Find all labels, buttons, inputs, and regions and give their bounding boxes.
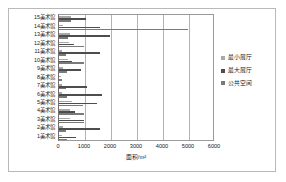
y-axis-label: 13美术馆 [9, 32, 55, 37]
y-axis-label: 6美术馆 [9, 92, 55, 97]
y-axis-label: 8美术馆 [9, 75, 55, 80]
y-axis-category-labels: 15美术馆14美术馆13美术馆12美术馆11美术馆10美术馆9美术馆8美术馆7美… [9, 14, 57, 141]
bar [59, 71, 67, 73]
bar [59, 29, 188, 31]
bar-group [59, 66, 213, 74]
bar-group [59, 116, 213, 124]
bar [59, 96, 67, 98]
plot-area [58, 14, 214, 141]
legend-swatch-icon [221, 81, 225, 85]
chart-legend: 最小展厅最大展厅公共空间 [221, 55, 275, 93]
bar-rows [59, 15, 213, 140]
y-axis-label: 12美术馆 [9, 41, 55, 46]
bar [59, 88, 66, 90]
y-axis-label: 2美术馆 [9, 125, 55, 130]
bar [59, 130, 66, 132]
bar [59, 79, 62, 81]
bar [59, 62, 84, 64]
y-axis-label: 3美术馆 [9, 117, 55, 122]
x-axis-tick: 2000 [104, 143, 116, 149]
y-axis-label: 9美术馆 [9, 66, 55, 71]
legend-label: 最小展厅 [228, 55, 252, 61]
x-axis-title: 面积/m² [58, 152, 214, 161]
bar [59, 46, 84, 48]
bar-group [59, 57, 213, 65]
legend-swatch-icon [221, 56, 225, 60]
legend-item[interactable]: 公共空间 [221, 81, 275, 87]
bar-group [59, 23, 213, 31]
bar-group [59, 32, 213, 40]
bar [59, 105, 83, 107]
bar [59, 113, 84, 115]
bar [59, 122, 84, 124]
y-axis-label: 4美术馆 [9, 108, 55, 113]
x-axis-tick-labels: 0100020003000400050006000 [58, 143, 216, 152]
y-axis-label: 15美术馆 [9, 15, 55, 20]
x-axis-tick: 3000 [130, 143, 142, 149]
bar-group [59, 40, 213, 48]
y-axis-label: 11美术馆 [9, 49, 55, 54]
bar-group [59, 91, 213, 99]
bar-group [59, 125, 213, 133]
bar-group [59, 108, 213, 116]
x-axis-tick: 1000 [78, 143, 90, 149]
x-axis-tick: 6000 [208, 143, 220, 149]
legend-swatch-icon [221, 69, 225, 73]
y-axis-label: 7美术馆 [9, 83, 55, 88]
y-axis-label: 5美术馆 [9, 100, 55, 105]
y-axis-label: 10美术馆 [9, 58, 55, 63]
bar-group [59, 15, 213, 23]
bar [59, 20, 71, 22]
chart-plot-wrapper: 15美术馆14美术馆13美术馆12美术馆11美术馆10美术馆9美术馆8美术馆7美… [9, 9, 277, 173]
bar-group [59, 100, 213, 108]
x-axis-tick: 5000 [182, 143, 194, 149]
bar-group [59, 74, 213, 82]
legend-label: 公共空间 [228, 81, 252, 87]
legend-item[interactable]: 最小展厅 [221, 55, 275, 61]
legend-item[interactable]: 最大展厅 [221, 68, 275, 74]
bar-group [59, 133, 213, 141]
bar-group [59, 49, 213, 57]
chart-container: 15美术馆14美术馆13美术馆12美术馆11美术馆10美术馆9美术馆8美术馆7美… [8, 8, 276, 172]
y-axis-label: 1美术馆 [9, 134, 55, 139]
y-axis-label: 14美术馆 [9, 24, 55, 29]
bar-group [59, 83, 213, 91]
x-axis-tick: 4000 [156, 143, 168, 149]
bar [59, 139, 67, 141]
x-axis-tick: 0 [56, 143, 59, 149]
legend-label: 最大展厅 [228, 68, 252, 74]
bar [59, 37, 68, 39]
bar [59, 76, 61, 78]
bar [59, 54, 66, 56]
